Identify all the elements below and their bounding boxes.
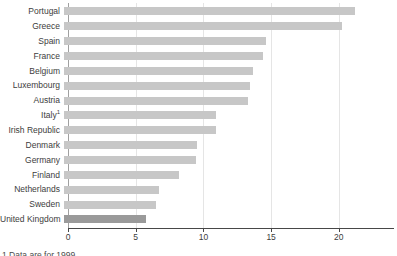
- bar-germany: [64, 156, 196, 164]
- chart-row: Irish Republic: [0, 123, 393, 138]
- chart-row: Austria: [0, 93, 393, 108]
- x-axis-tick-label: 20: [334, 232, 343, 242]
- chart-row: United Kingdom: [0, 212, 393, 227]
- category-label: Germany: [0, 156, 64, 165]
- bar-track: [64, 201, 393, 209]
- x-axis-tick-labels: 05101520: [68, 232, 393, 242]
- chart-footnote: 1 Data are for 1999: [2, 250, 75, 256]
- bar-track: [64, 126, 393, 134]
- bar-track: [64, 52, 393, 60]
- chart-row: Luxembourg: [0, 78, 393, 93]
- category-label: Austria: [0, 96, 64, 105]
- x-axis-tick-label: 15: [266, 232, 275, 242]
- bar-track: [64, 171, 393, 179]
- bar-track: [64, 67, 393, 75]
- category-label: Italy1: [0, 111, 64, 120]
- chart-row: Denmark: [0, 138, 393, 153]
- category-label: Belgium: [0, 67, 64, 76]
- bar-finland: [64, 171, 179, 179]
- bar-belgium: [64, 67, 253, 75]
- category-label: Denmark: [0, 141, 64, 150]
- category-label: Irish Republic: [0, 126, 64, 135]
- bar-denmark: [64, 141, 197, 149]
- bar-greece: [64, 22, 342, 30]
- category-label: Spain: [0, 37, 64, 46]
- bar-irish-republic: [64, 126, 216, 134]
- category-label: Greece: [0, 22, 64, 31]
- bar-track: [64, 141, 393, 149]
- chart-row: Italy1: [0, 108, 393, 123]
- category-label: Sweden: [0, 200, 64, 209]
- eu-comparison-bar-chart: PortugalGreeceSpainFranceBelgiumLuxembou…: [0, 0, 397, 256]
- category-label: Finland: [0, 171, 64, 180]
- chart-row: Spain: [0, 34, 393, 49]
- bar-portugal: [64, 7, 355, 15]
- category-label: United Kingdom: [0, 215, 64, 224]
- bar-track: [64, 156, 393, 164]
- chart-row: Belgium: [0, 63, 393, 78]
- chart-rows: PortugalGreeceSpainFranceBelgiumLuxembou…: [0, 4, 393, 227]
- bar-track: [64, 82, 393, 90]
- chart-row: Sweden: [0, 197, 393, 212]
- category-label: Netherlands: [0, 185, 64, 194]
- bar-austria: [64, 97, 248, 105]
- chart-row: France: [0, 49, 393, 64]
- bar-luxembourg: [64, 82, 250, 90]
- category-label: Portugal: [0, 7, 64, 16]
- category-label: France: [0, 52, 64, 61]
- bar-united-kingdom: [64, 215, 146, 223]
- bar-track: [64, 111, 393, 119]
- x-axis-tick-label: 5: [133, 232, 138, 242]
- bar-italy: [64, 111, 216, 119]
- bar-netherlands: [64, 186, 159, 194]
- bar-spain: [64, 37, 266, 45]
- chart-row: Netherlands: [0, 182, 393, 197]
- bar-sweden: [64, 201, 156, 209]
- bar-track: [64, 22, 393, 30]
- bar-track: [64, 37, 393, 45]
- x-axis-tick-label: 10: [199, 232, 208, 242]
- chart-row: Finland: [0, 167, 393, 182]
- bar-france: [64, 52, 263, 60]
- bar-track: [64, 7, 393, 15]
- chart-row: Germany: [0, 153, 393, 168]
- category-label: Luxembourg: [0, 81, 64, 90]
- x-axis-tick-label: 0: [66, 232, 71, 242]
- chart-row: Portugal: [0, 4, 393, 19]
- bar-track: [64, 215, 393, 223]
- bar-track: [64, 97, 393, 105]
- footnote-marker: 1: [57, 109, 60, 115]
- chart-row: Greece: [0, 19, 393, 34]
- bar-track: [64, 186, 393, 194]
